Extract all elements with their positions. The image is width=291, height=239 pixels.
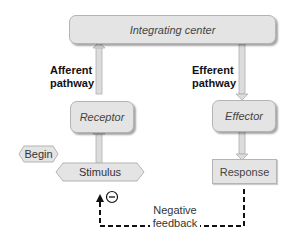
stimulus-label-wrap: Stimulus [56,163,144,181]
receptor-label: Receptor [80,111,125,123]
effector-label: Effector [225,110,263,122]
response-label: Response [220,166,270,178]
response-box: Response [212,159,277,184]
effector-box: Effector [212,100,276,132]
afferent-arrow-shaft [96,46,102,94]
integrating-center-box: Integrating center [69,15,276,44]
receptor-box: Receptor [70,101,134,133]
begin-label: Begin [24,148,52,160]
negative-feedback-label: Negative feedback [150,204,200,230]
stimulus-arrow-shaft [96,130,102,163]
efferent-arrow-shaft [239,44,245,94]
stimulus-label: Stimulus [79,166,121,178]
begin-label-wrap: Begin [19,146,58,162]
response-arrow-shaft [239,130,245,154]
efferent-pathway-label: Efferent pathway [192,64,236,90]
integrating-center-label: Integrating center [130,24,216,36]
feedback-arrow-head [96,194,104,202]
afferent-pathway-label: Afferent pathway [50,64,94,90]
